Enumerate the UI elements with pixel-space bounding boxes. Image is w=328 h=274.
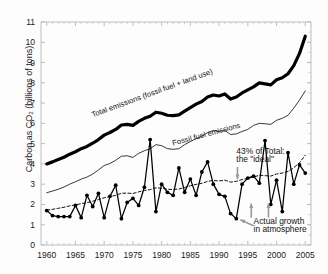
arrow xyxy=(235,167,239,179)
data-point xyxy=(298,163,302,167)
x-tick-label: 2005 xyxy=(296,250,315,260)
data-point xyxy=(120,217,124,221)
data-point xyxy=(217,192,221,196)
data-point xyxy=(223,194,227,198)
data-point xyxy=(286,151,290,155)
data-point xyxy=(68,215,72,219)
x-tick-label: 1965 xyxy=(66,250,85,260)
arrow xyxy=(240,220,253,226)
y-tick-label: 0 xyxy=(30,240,35,250)
data-point xyxy=(200,170,204,174)
axis-frame xyxy=(41,22,311,245)
y-tick-label: 1 xyxy=(30,220,35,230)
data-point xyxy=(102,216,106,220)
data-point xyxy=(280,210,284,214)
data-point xyxy=(171,193,175,197)
annotation-actual-label-line2: in atmosphere xyxy=(254,224,307,234)
y-tick-label: 5 xyxy=(30,139,35,149)
data-point xyxy=(292,182,296,186)
annotation-labels: Total emissions (fossil fuel + land use)… xyxy=(90,67,307,234)
data-point xyxy=(188,177,192,181)
data-point xyxy=(97,191,101,195)
data-point xyxy=(114,183,118,187)
data-point xyxy=(206,160,210,164)
x-tick-label: 1995 xyxy=(238,250,257,260)
y-tick-label: 4 xyxy=(30,159,35,169)
data-point xyxy=(229,212,233,216)
data-point xyxy=(160,182,164,186)
data-point xyxy=(177,166,181,170)
y-tick-label: 9 xyxy=(30,58,35,68)
data-point xyxy=(56,215,60,219)
x-tick-label: 1985 xyxy=(181,250,200,260)
data-point xyxy=(62,215,66,219)
data-point xyxy=(51,214,55,218)
data-point xyxy=(275,178,279,182)
y-tick-label: 3 xyxy=(30,179,35,189)
annotation-total-label: Total emissions (fossil fuel + land use) xyxy=(90,67,214,119)
data-point xyxy=(131,196,135,200)
data-point xyxy=(252,174,256,178)
data-point xyxy=(257,181,261,185)
data-point xyxy=(108,194,112,198)
x-tick-label: 2000 xyxy=(267,250,286,260)
data-point xyxy=(137,204,141,208)
y-tick-label: 11 xyxy=(26,17,35,27)
data-point xyxy=(211,182,215,186)
data-point xyxy=(154,210,158,214)
data-point xyxy=(85,193,89,197)
x-tick-label: 1980 xyxy=(152,250,171,260)
data-point xyxy=(303,171,307,175)
annotation-ideal-label-line2: the "ideal" xyxy=(236,154,274,164)
data-series-group xyxy=(45,36,307,220)
data-point xyxy=(45,209,49,213)
y-tick-label: 7 xyxy=(30,98,35,108)
data-point xyxy=(74,204,78,208)
chart-canvas: 01234567891011 1960196519701975198019851… xyxy=(0,0,328,274)
data-point xyxy=(143,185,147,189)
x-tick-label: 1990 xyxy=(210,250,229,260)
y-tick-label: 10 xyxy=(26,37,36,47)
data-point xyxy=(194,193,198,197)
data-point xyxy=(91,205,95,209)
data-point xyxy=(148,138,152,142)
chart-figure: Carbon as CO₂ (billions of tons) 0123456… xyxy=(0,0,328,274)
x-tick-label: 1960 xyxy=(37,250,56,260)
data-point xyxy=(246,176,250,180)
data-point xyxy=(183,190,187,194)
x-tick-label: 1975 xyxy=(123,250,142,260)
y-tick-label: 8 xyxy=(30,78,35,88)
x-tick-label: 1970 xyxy=(95,250,114,260)
y-tick-label: 2 xyxy=(30,199,35,209)
data-point xyxy=(79,216,83,220)
y-tick-label: 6 xyxy=(30,118,35,128)
data-point xyxy=(240,182,244,186)
data-point xyxy=(234,217,238,221)
data-point xyxy=(125,201,129,205)
data-point xyxy=(263,139,267,143)
data-point xyxy=(165,190,169,194)
